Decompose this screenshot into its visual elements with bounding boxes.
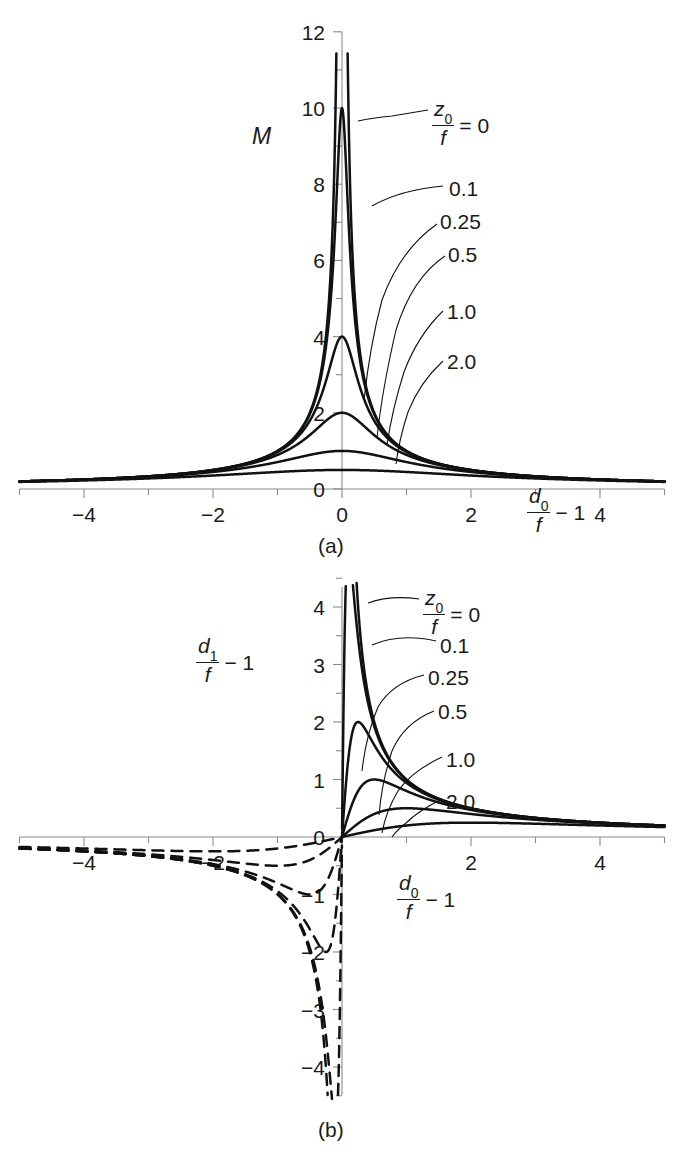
panel-a-z0f-fraction: z0 f (432, 98, 454, 150)
panel-a-y-tick-label: 6 (313, 249, 325, 272)
panel-a-curve-label-3: 0.5 (448, 244, 477, 265)
panel-b-curve-label-0-text: = 0 (450, 604, 480, 625)
panel-b-y-tick-label: 0 (313, 826, 325, 849)
panel-b-x-fraction: d0 f (397, 872, 420, 924)
panel-b-curve-z0_1-positive (342, 585, 664, 828)
panel-b-curve-z0_25-positive (342, 722, 664, 836)
panel-b-z0f-fraction: z0 f (423, 587, 445, 639)
panel-b-curve-label-2: 0.25 (428, 667, 469, 688)
panel-b-x-tick-label: −4 (72, 851, 96, 874)
panel-b-curve-label-0: z0 f = 0 (423, 589, 480, 641)
panel-b-plot: −4−224−4−3−2−101234 (0, 575, 683, 1159)
panel-b-curve-label-4: 1.0 (446, 749, 475, 770)
panel-b-curve-label-1: 0.1 (440, 635, 469, 656)
panel-b-curve-z0_25-negative (20, 838, 342, 952)
panel-a-curve-label-0: z0 f = 0 (432, 100, 489, 152)
panel-a-y-tick-label: 12 (302, 21, 325, 44)
panel-a-curve-label-2: 0.25 (440, 211, 481, 232)
panel-a-x-axis-label: d0 f − 1 (527, 487, 585, 539)
panel-a-y-axis-label: M (252, 125, 271, 148)
panel-b-y-fraction: d1 f (196, 635, 219, 687)
panel-b-y-label-suffix: − 1 (224, 652, 254, 673)
panel-b-y-tick-label: −4 (301, 1056, 325, 1079)
panel-a-x-tick-label: 2 (465, 503, 477, 526)
panel-b-x-label-suffix: − 1 (425, 889, 455, 910)
panel-a-x-tick-label: −2 (201, 503, 225, 526)
panel-b-curve-label-3: 0.5 (438, 701, 467, 722)
panel-b-curve-z2-positive (342, 823, 664, 837)
panel-b-curve-label-5: 2.0 (446, 791, 475, 812)
panel-a-x-tick-label: −4 (72, 503, 96, 526)
panel-b-leader-5 (392, 799, 442, 837)
panel-a-x-label-suffix: − 1 (555, 502, 585, 523)
figure-container: −4−2024024681012 M d0 f − 1 z0 f (0, 0, 683, 1159)
panel-a-caption: (a) (318, 534, 344, 558)
panel-b-y-tick-label: 4 (313, 596, 325, 619)
panel-b-curve-z0_1-negative (20, 846, 342, 1099)
panel-b-x-tick-label: −2 (201, 851, 225, 874)
panel-a-x-tick-label: 0 (336, 503, 348, 526)
panel-a-curve-label-1: 0.1 (449, 178, 478, 199)
panel-a-x-fraction: d0 f (527, 485, 550, 537)
panel-b-caption: (b) (318, 1118, 344, 1142)
panel-b-leader-0 (368, 598, 419, 603)
panel-a-leader-1 (372, 186, 443, 206)
panel-a-leader-2 (364, 224, 437, 400)
panel-b: −4−224−4−3−2−101234 d1 f − 1 d0 f − 1 (0, 575, 683, 1159)
panel-a: −4−2024024681012 M d0 f − 1 z0 f (0, 0, 683, 575)
panel-a-x-tick-label: 4 (594, 503, 606, 526)
panel-a-leader-3 (377, 256, 445, 438)
panel-b-curve-z2-negative (20, 837, 342, 851)
panel-b-y-tick-label: 3 (313, 654, 325, 677)
panel-a-y-tick-label: 0 (313, 478, 325, 501)
panel-b-leader-2 (362, 675, 424, 771)
panel-b-y-tick-label: 1 (313, 769, 325, 792)
panel-b-y-axis-label: d1 f − 1 (196, 637, 254, 689)
panel-b-x-tick-label: 4 (594, 851, 606, 874)
panel-b-x-axis-label: d0 f − 1 (397, 874, 455, 926)
panel-b-y-tick-label: 2 (313, 711, 325, 734)
panel-a-y-tick-label: 10 (302, 97, 325, 120)
panel-a-curve-label-0-text: = 0 (459, 115, 489, 136)
panel-a-leader-0 (358, 110, 428, 121)
panel-a-curve-label-4: 1.0 (447, 301, 476, 322)
panel-b-x-tick-label: 2 (465, 851, 477, 874)
panel-a-curve-label-5: 2.0 (447, 351, 476, 372)
panel-a-y-tick-label: 4 (313, 326, 325, 349)
panel-a-y-tick-label: 8 (313, 173, 325, 196)
